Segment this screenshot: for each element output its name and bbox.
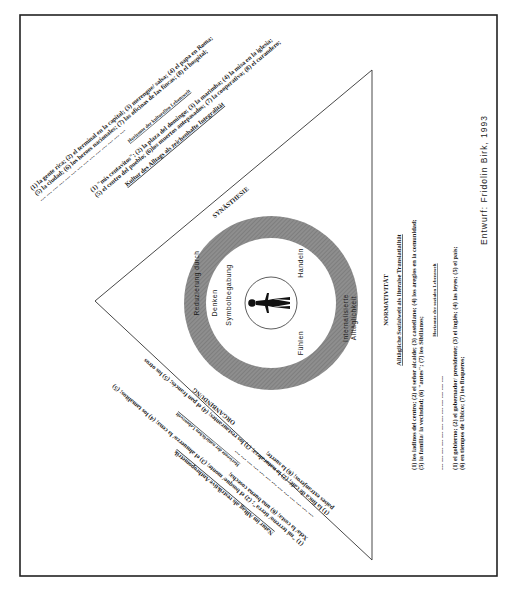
vertex-synaesthesie: SYNÄSTHESIE bbox=[211, 185, 250, 219]
top-heading: Kultur des Alltags als zeichenhafte Inte… bbox=[123, 100, 226, 188]
right-outer-line-2: (6) en tiempos de Ubico; (7) los finquer… bbox=[458, 356, 466, 470]
ring-label-reduzierung: Reduzierung durch bbox=[193, 250, 201, 315]
vertex-normativitaet: NORMATIVITÄT bbox=[382, 274, 389, 326]
author-credit: Entwurf: Fridolin Birk, 1993 bbox=[479, 115, 489, 245]
right-inner-line-2: (5) la familia/ la vecindad; (6) "antes"… bbox=[417, 316, 425, 470]
ring-label-alltaeglichkeit: Alltäglichkeit bbox=[350, 296, 358, 341]
label-fuehlen: Fühlen bbox=[297, 331, 304, 355]
right-dashes: --- --- --- --- --- --- --- --- --- --- … bbox=[438, 376, 445, 470]
right-heading: Alltägliche Sozialwelt als literalse Tra… bbox=[395, 233, 402, 365]
ring-label-internalisierte: Internalisierte bbox=[342, 294, 349, 342]
label-denken: Denken bbox=[211, 289, 218, 316]
right-side-text: Alltägliche Sozialwelt als literalse Tra… bbox=[395, 219, 466, 470]
top-dashes: --- --- --- --- --- --- --- --- --- --- … bbox=[38, 127, 127, 203]
label-symbolbegabung: Symbolbegabung bbox=[225, 264, 233, 326]
right-horizon-label: Horizonte der sozialen Lebenswelt bbox=[432, 263, 437, 337]
label-handeln: Handeln bbox=[297, 248, 304, 278]
diagram-canvas: Denken Symbolbegabung Handeln Fühlen Red… bbox=[0, 0, 517, 614]
top-side-text: (1) la gente rica; (2) el terminal en la… bbox=[28, 2, 289, 235]
